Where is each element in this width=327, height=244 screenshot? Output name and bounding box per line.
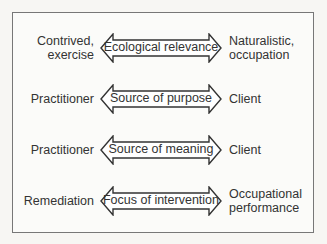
left-pole-label: Practitioner bbox=[31, 84, 94, 114]
double-arrow-icon: Ecological relevance bbox=[100, 33, 222, 63]
left-pole-label: Contrived, exercise bbox=[37, 33, 94, 63]
right-pole-label: Naturalistic, occupation bbox=[229, 33, 294, 63]
continuum-row-focus-of-intervention: Remediation Focus of intervention Occupa… bbox=[0, 186, 327, 216]
double-arrow-icon: Focus of intervention bbox=[100, 186, 222, 216]
dimension-label: Source of meaning bbox=[100, 142, 222, 157]
left-pole-label: Remediation bbox=[24, 186, 94, 216]
right-pole-label: Occupational performance bbox=[229, 186, 302, 216]
dimension-label: Ecological relevance bbox=[100, 40, 222, 55]
double-arrow-icon: Source of meaning bbox=[100, 135, 222, 165]
left-pole-label: Practitioner bbox=[31, 135, 94, 165]
right-pole-label: Client bbox=[229, 135, 261, 165]
double-arrow-icon: Source of purpose bbox=[100, 84, 222, 114]
dimension-label: Focus of intervention bbox=[100, 193, 222, 208]
dimension-label: Source of purpose bbox=[100, 91, 222, 106]
continuum-row-source-of-purpose: Practitioner Source of purpose Client bbox=[0, 84, 327, 114]
continuum-row-source-of-meaning: Practitioner Source of meaning Client bbox=[0, 135, 327, 165]
continuum-row-ecological-relevance: Contrived, exercise Ecological relevance… bbox=[0, 33, 327, 63]
right-pole-label: Client bbox=[229, 84, 261, 114]
